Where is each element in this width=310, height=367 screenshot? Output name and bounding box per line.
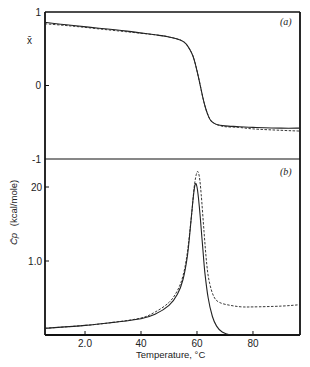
y-axis-b-symbol: C̄p: [8, 233, 19, 245]
dashed-curve: [45, 24, 300, 131]
x-axis-title: Temperature, °C: [136, 349, 205, 360]
x-tick-label: 2.0: [78, 338, 92, 349]
y-axis-b-title: C̄p (kcal/mole): [8, 180, 19, 245]
thermal-transition-chart: 10-1201.02.0406080 (a) (b) x̄ C̄p (kcal/…: [0, 0, 310, 367]
y-axis-a-title: x̄: [27, 35, 32, 46]
y-tick-label: 0: [35, 80, 41, 91]
solid-curve: [45, 22, 300, 128]
x-tick-label: 40: [135, 338, 147, 349]
solid-curve: [45, 183, 300, 335]
dashed-curve: [45, 171, 300, 328]
panel-b-label: (b): [280, 166, 292, 178]
panel-b-series: [45, 171, 300, 335]
y-tick-label: 1.0: [28, 256, 42, 267]
axis-ticks: 10-1201.02.0406080: [28, 7, 259, 350]
x-tick-label: 80: [247, 338, 259, 349]
panel-a-label: (a): [280, 16, 292, 28]
y-tick-label: -1: [32, 154, 41, 165]
y-tick-label: 20: [31, 182, 43, 193]
y-axis-b-units: (kcal/mole): [8, 180, 19, 226]
panel-a-series: [45, 22, 300, 131]
plot-frame: [45, 12, 300, 335]
x-tick-label: 60: [191, 338, 203, 349]
y-tick-label: 1: [35, 7, 41, 18]
